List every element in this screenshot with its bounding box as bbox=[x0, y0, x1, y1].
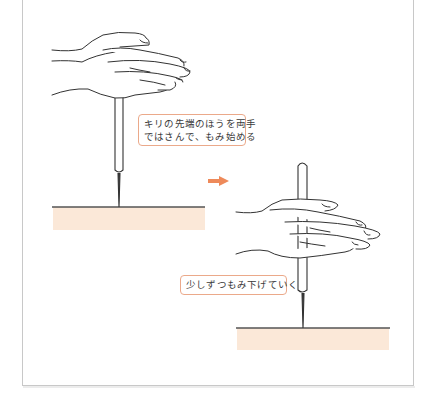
hands-step-1 bbox=[52, 32, 190, 98]
caption-step-1-line-1: キリの先端のほうを両手 bbox=[144, 117, 240, 130]
awl-step-2 bbox=[298, 163, 307, 328]
caption-step-2: 少しずつもみ下げていく bbox=[180, 275, 287, 295]
illustration bbox=[0, 0, 423, 398]
caption-step-2-line-1: 少しずつもみ下げていく bbox=[186, 278, 281, 291]
caption-step-1: キリの先端のほうを両手 ではさんで、もみ始める bbox=[138, 114, 246, 146]
ground-step-2 bbox=[236, 328, 390, 350]
right-arrow-icon bbox=[208, 176, 229, 186]
hands-step-2 bbox=[236, 199, 380, 258]
ground-step-1 bbox=[52, 207, 205, 230]
caption-step-1-line-2: ではさんで、もみ始める bbox=[144, 130, 240, 143]
awl-step-1 bbox=[115, 96, 123, 207]
